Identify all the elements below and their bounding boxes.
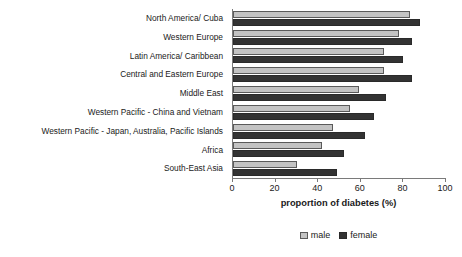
category-label: Western Europe: [0, 28, 228, 47]
x-axis-tick: [402, 178, 403, 182]
bar-male: [233, 30, 399, 37]
bar-female: [233, 132, 365, 139]
bar-group: [233, 47, 446, 66]
bar-group: [233, 65, 446, 84]
bar-group: [233, 103, 446, 122]
category-label: Western Pacific - Japan, Australia, Paci…: [0, 122, 228, 141]
category-label: Central and Eastern Europe: [0, 65, 228, 84]
category-label: Latin America/ Caribbean: [0, 47, 228, 66]
bar-female: [233, 169, 337, 176]
bars-panel: [232, 9, 446, 178]
x-axis-tick: [360, 178, 361, 182]
plot-area: North America/ Cuba Western Europe Latin…: [0, 0, 462, 185]
legend-item-female: female: [339, 230, 377, 240]
bar-male: [233, 86, 359, 93]
bar-male: [233, 142, 322, 149]
category-axis-labels: North America/ Cuba Western Europe Latin…: [0, 9, 228, 178]
x-axis-tick-label: 20: [270, 183, 280, 193]
category-label: North America/ Cuba: [0, 9, 228, 28]
bar-group: [233, 159, 446, 178]
category-label: South-East Asia: [0, 159, 228, 178]
legend-swatch-female-icon: [339, 232, 347, 239]
x-axis-tick-label: 0: [229, 183, 234, 193]
x-axis-tick-label: 60: [355, 183, 365, 193]
x-axis-tick: [275, 178, 276, 182]
bar-female: [233, 19, 420, 26]
category-label: Western Pacific - China and Vietnam: [0, 103, 228, 122]
bar-male: [233, 161, 297, 168]
bar-chart-figure: North America/ Cuba Western Europe Latin…: [0, 0, 462, 257]
x-axis-tick: [317, 178, 318, 182]
x-axis-tick-label: 40: [312, 183, 322, 193]
category-label: Middle East: [0, 84, 228, 103]
x-axis-tick-label: 100: [437, 183, 452, 193]
legend-label-female: female: [350, 230, 377, 240]
bar-group: [233, 84, 446, 103]
bar-group: [233, 28, 446, 47]
bar-male: [233, 105, 350, 112]
x-axis-line: [232, 178, 445, 179]
bar-male: [233, 11, 410, 18]
bar-group: [233, 122, 446, 141]
bar-male: [233, 67, 384, 74]
bar-female: [233, 56, 403, 63]
bar-female: [233, 75, 412, 82]
x-axis-tick: [445, 178, 446, 182]
legend-label-male: male: [311, 230, 331, 240]
legend-swatch-male-icon: [300, 232, 308, 239]
chart-legend: male female: [232, 230, 445, 240]
category-label: Africa: [0, 140, 228, 159]
x-axis-tick-label: 80: [397, 183, 407, 193]
bar-group: [233, 140, 446, 159]
x-axis-title: proportion of diabetes (%): [232, 198, 445, 208]
bar-female: [233, 113, 374, 120]
bar-female: [233, 38, 412, 45]
bar-female: [233, 94, 386, 101]
legend-item-male: male: [300, 230, 331, 240]
bar-group: [233, 9, 446, 28]
bar-male: [233, 48, 384, 55]
bar-male: [233, 124, 333, 131]
bar-female: [233, 150, 344, 157]
x-axis-tick: [232, 178, 233, 182]
